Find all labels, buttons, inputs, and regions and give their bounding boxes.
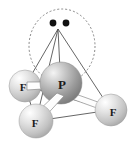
lone-pair-electron-right	[63, 20, 70, 27]
atom-label-f-right: F	[110, 106, 117, 118]
atom-label-p: P	[58, 77, 66, 92]
molecule-diagram: P F F F	[0, 0, 129, 144]
lone-pair-electron-left	[50, 20, 57, 27]
pf3-figure-canvas: P F F F	[0, 0, 129, 144]
atom-label-f-left: F	[20, 81, 27, 93]
atom-label-f-bottom: F	[32, 117, 39, 129]
